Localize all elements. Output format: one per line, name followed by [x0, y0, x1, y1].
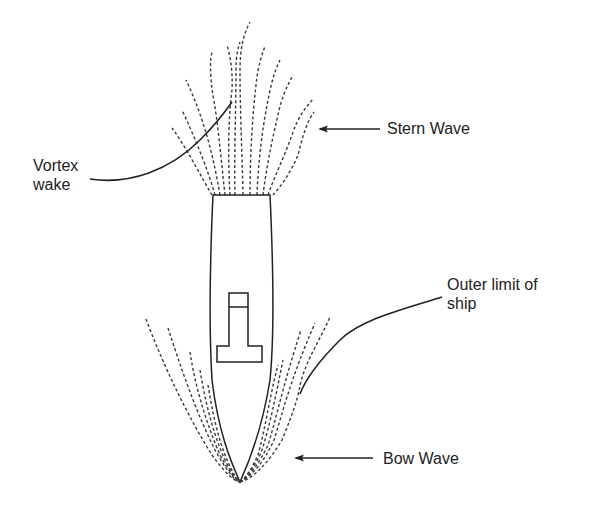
outer-limit-label-line2: ship — [447, 294, 538, 313]
vortex-wake-label-line2: wake — [33, 175, 78, 194]
bow-wave-arrow — [294, 455, 373, 462]
bow-wave-lines-left — [146, 319, 240, 482]
outer-limit-label: Outer limit of ship — [447, 275, 538, 313]
stern-wake-lines — [172, 22, 314, 195]
vortex-wake-label-line1: Vortex — [33, 156, 78, 175]
bow-wave-label: Bow Wave — [383, 449, 459, 468]
ship-superstructure — [217, 293, 262, 362]
outer-limit-leader-line — [300, 297, 442, 394]
ship-wake-diagram — [0, 0, 602, 507]
vortex-wake-leader-line — [90, 102, 232, 180]
outer-limit-label-line1: Outer limit of — [447, 275, 538, 294]
stern-wave-arrow — [318, 126, 380, 133]
stern-wave-label: Stern Wave — [387, 119, 470, 138]
vortex-wake-label: Vortex wake — [33, 156, 78, 194]
